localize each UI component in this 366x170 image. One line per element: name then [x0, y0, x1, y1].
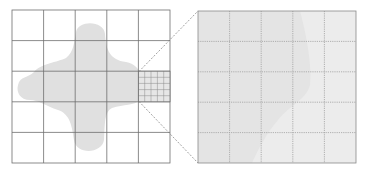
blob-region	[18, 23, 141, 151]
right-magnified-grid	[198, 11, 356, 163]
refined-cell	[138, 71, 170, 102]
diagram-canvas	[0, 0, 366, 170]
